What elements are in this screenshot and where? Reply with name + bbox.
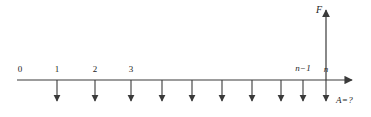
tick-label-0: 0	[18, 64, 23, 74]
diagram-canvas	[0, 0, 371, 117]
reaction-answer-label: A=?	[336, 95, 353, 105]
load-arrow-group	[57, 80, 326, 101]
tick-label-n-minus-1: n−1	[295, 63, 311, 73]
force-f-label: F	[316, 4, 322, 15]
tick-label-n: n	[324, 64, 329, 74]
load-diagram-figure: 0 1 2 3 n−1 n F A=?	[0, 0, 371, 117]
tick-label-1: 1	[55, 64, 60, 74]
tick-label-3: 3	[129, 64, 134, 74]
tick-label-2: 2	[93, 64, 98, 74]
